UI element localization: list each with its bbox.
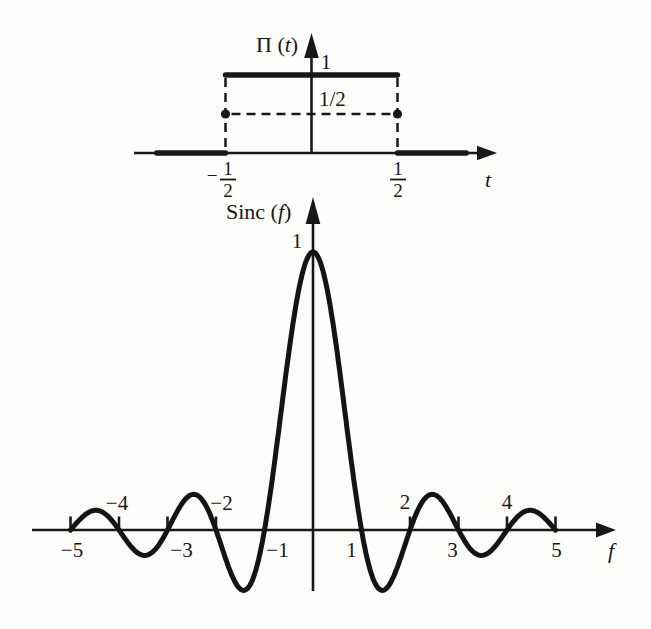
- pulse-tick-pos-half: 1 2: [390, 158, 406, 201]
- sinc-title-name: Sinc (: [226, 199, 278, 224]
- tick-label-neg3: −3: [170, 538, 192, 562]
- fraction-numerator: 1: [393, 158, 403, 179]
- pulse-title-close: ): [291, 32, 298, 57]
- tick-label-neg4: −4: [106, 491, 129, 515]
- sinc-x-axis-label: f: [608, 538, 617, 563]
- sinc-title-close: ): [284, 199, 291, 224]
- half-level-dot: [221, 109, 230, 118]
- sinc-peak-label: 1: [292, 229, 303, 253]
- tick-label-pos5: 5: [551, 538, 562, 562]
- pulse-tick-neg-half: − 1 2: [207, 158, 236, 201]
- fraction-denominator: 2: [393, 180, 403, 201]
- fourier-pair-figure: Π (t) 1 1/2 − 1 2 1 2 t: [0, 0, 651, 629]
- pulse-title-name: Π (: [256, 32, 285, 57]
- tick-label-pos4: 4: [502, 490, 513, 514]
- figure-canvas: Π (t) 1 1/2 − 1 2 1 2 t: [0, 0, 651, 629]
- pulse-level-half-label: 1/2: [319, 87, 346, 111]
- minus-sign: −: [207, 165, 218, 186]
- sinc-title: Sinc (f): [226, 199, 291, 224]
- pulse-chart: Π (t) 1 1/2 − 1 2 1 2 t: [134, 32, 497, 201]
- sinc-y-axis-arrow-icon: [306, 197, 321, 224]
- sinc-x-axis-arrow-icon: [596, 523, 616, 538]
- pulse-x-axis-label: t: [485, 167, 492, 192]
- pulse-y-axis-arrow-icon: [304, 33, 319, 58]
- tick-label-neg2: −2: [210, 491, 232, 515]
- pulse-x-axis-arrow-icon: [477, 146, 497, 160]
- half-level-dot: [393, 109, 402, 118]
- tick-label-pos2: 2: [400, 490, 411, 514]
- sinc-chart: Sinc (f) 1 −5 −3 −1 1 3 5 −4 −2 2 4 f: [32, 197, 617, 591]
- pulse-title: Π (t): [256, 32, 298, 57]
- pulse-level-1-label: 1: [321, 50, 332, 74]
- fraction-numerator: 1: [223, 158, 233, 179]
- tick-label-pos3: 3: [447, 538, 458, 562]
- tick-label-pos1: 1: [346, 538, 357, 562]
- fraction-denominator: 2: [223, 180, 233, 201]
- tick-label-neg5: −5: [61, 538, 83, 562]
- tick-label-neg1: −1: [266, 538, 288, 562]
